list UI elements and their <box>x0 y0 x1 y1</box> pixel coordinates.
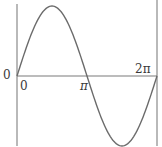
y-origin-label: 0 <box>3 69 11 81</box>
x-tick-label-2pi: 2π <box>135 63 151 75</box>
x-tick-label-pi: π <box>80 80 88 92</box>
x-origin-label: 0 <box>20 80 28 92</box>
